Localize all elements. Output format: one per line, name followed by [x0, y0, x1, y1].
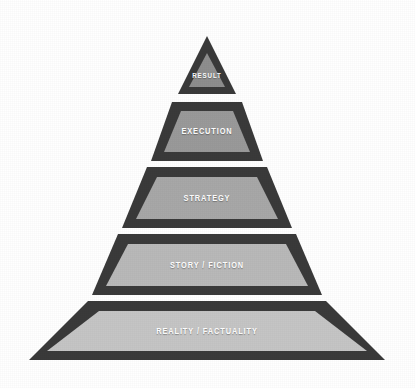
tier-2-label-text: EXECUTION [181, 126, 232, 136]
tier-4-label: STORY / FICTION [162, 260, 252, 270]
tier-3-label-text: STRATEGY [184, 193, 231, 203]
tier-3-label: STRATEGY [178, 193, 235, 203]
tier-2-label: EXECUTION [176, 126, 238, 136]
tier-1-label: RESULT [189, 71, 225, 80]
tier-5-label-text: REALITY / FACTUALITY [156, 326, 258, 336]
tier-1-label-text: RESULT [192, 71, 222, 80]
pyramid-diagram: RESULT EXECUTION STRATEGY STORY / FICTIO… [0, 0, 415, 388]
tier-4-label-text: STORY / FICTION [170, 260, 244, 270]
tier-5-label: REALITY / FACTUALITY [145, 326, 269, 336]
